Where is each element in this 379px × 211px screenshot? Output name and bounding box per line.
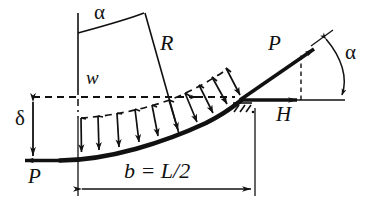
- figure-canvas: α R w δ P P H α b = L/2: [0, 0, 379, 211]
- load-arrow: [117, 113, 119, 147]
- angle-right-label: α: [345, 42, 356, 63]
- load-arrow: [169, 100, 178, 130]
- load-arrow: [81, 118, 82, 152]
- hatch-stroke: [246, 105, 251, 112]
- hatch-stroke: [240, 105, 245, 112]
- sag-label: δ: [15, 108, 25, 129]
- span-label: b = L/2: [124, 160, 190, 182]
- angle-top-arc: [78, 13, 144, 33]
- force-right-label: P: [268, 33, 281, 54]
- radius-label: R: [160, 32, 173, 54]
- curved-member: [60, 101, 241, 161]
- load-arrow: [226, 68, 240, 95]
- distributed-load-label: w: [86, 68, 99, 87]
- reaction-horizontal-label: H: [276, 104, 291, 125]
- angle-right-arc-group: [326, 39, 344, 95]
- load-arrow: [135, 109, 139, 142]
- curved-member-group: [60, 101, 241, 161]
- load-arrow: [212, 77, 227, 104]
- hatch-dot: [252, 111, 255, 114]
- load-arrow: [152, 105, 158, 136]
- force-right-arrow: [240, 49, 314, 100]
- load-arrow: [98, 116, 99, 150]
- angle-top-arc-group: [78, 13, 144, 33]
- force-right-group: [240, 30, 333, 100]
- angle-right-arc: [326, 39, 344, 95]
- angle-top-label: α: [94, 2, 105, 23]
- load-tail-ticks: [81, 68, 231, 119]
- force-left-label: P: [28, 166, 41, 187]
- load-arrow: [199, 85, 213, 113]
